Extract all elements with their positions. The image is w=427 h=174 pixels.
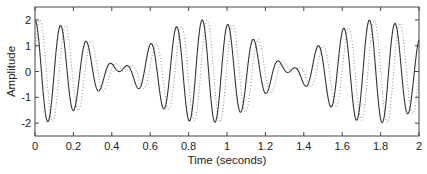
y-tick-label: -1 xyxy=(21,91,31,103)
x-tick-label: 0.4 xyxy=(104,140,119,152)
amplitude-time-chart: 00.20.40.60.811.21.41.61.82 210-1-2 Time… xyxy=(0,0,427,174)
x-tick-label: 1.4 xyxy=(296,140,311,152)
y-axis-label: Amplitude xyxy=(5,46,17,97)
y-tick-label: -2 xyxy=(21,117,31,129)
x-tick-label: 0.8 xyxy=(181,140,196,152)
x-axis-label: Time (seconds) xyxy=(188,154,267,166)
x-tick-label: 0.6 xyxy=(143,140,158,152)
x-tick-label: 0.2 xyxy=(66,140,81,152)
x-tick-label: 1 xyxy=(224,140,230,152)
x-tick-label: 1.2 xyxy=(258,140,273,152)
x-tick-label: 0 xyxy=(32,140,38,152)
x-tick-label: 1.8 xyxy=(373,140,388,152)
y-tick-label: 0 xyxy=(25,66,31,78)
chart-background xyxy=(0,0,427,174)
x-tick-label: 1.6 xyxy=(335,140,350,152)
y-tick-label: 1 xyxy=(25,40,31,52)
y-tick-label: 2 xyxy=(25,14,31,26)
x-tick-label: 2 xyxy=(416,140,422,152)
